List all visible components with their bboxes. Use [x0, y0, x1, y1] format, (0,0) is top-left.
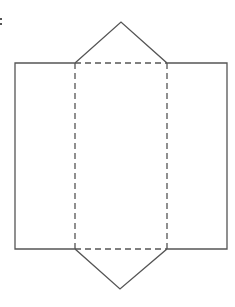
prism-net-diagram [0, 0, 235, 307]
